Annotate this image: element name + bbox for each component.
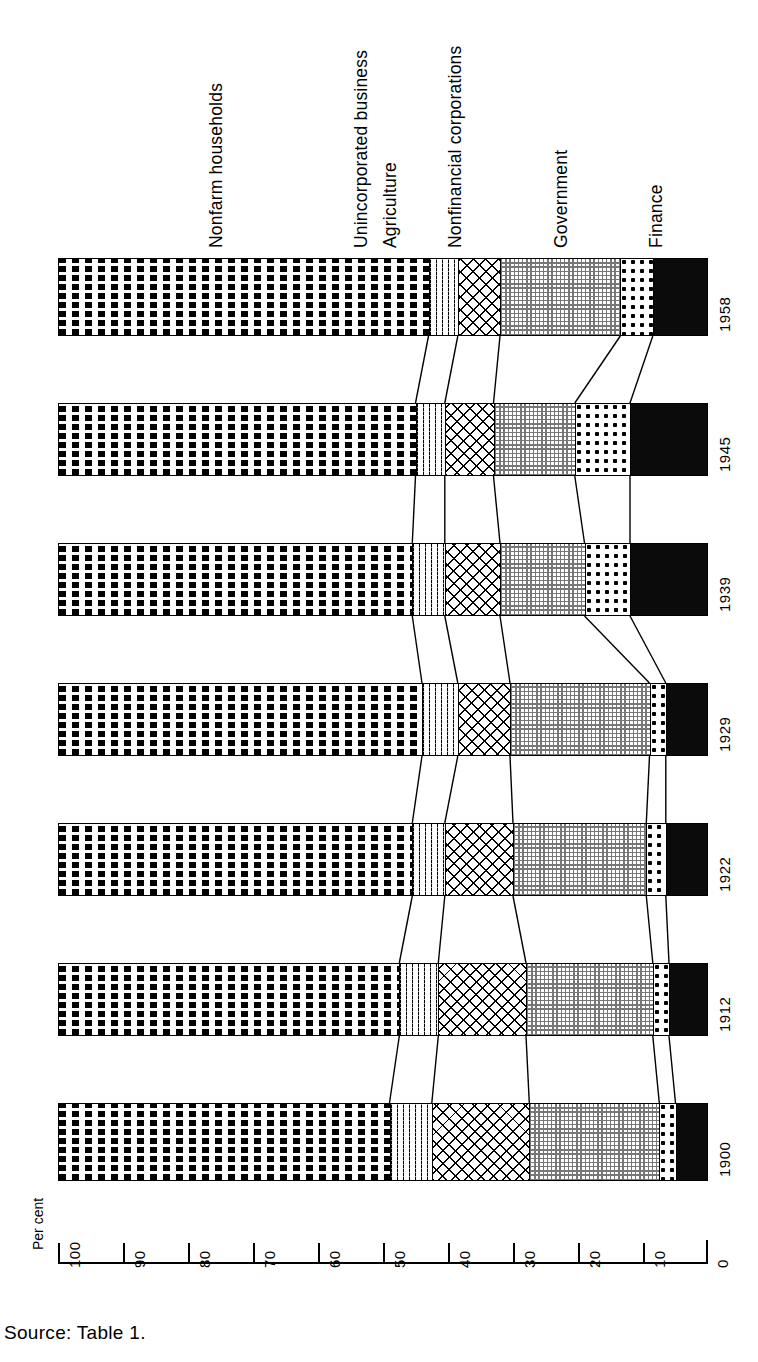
segment-1939-nonfarm-households <box>59 544 413 615</box>
segment-1939-finance <box>631 544 708 615</box>
segment-1929-finance <box>667 684 708 755</box>
segment-1945-unincorporated-business <box>417 404 446 475</box>
year-label-1922: 1922 <box>716 857 733 892</box>
segment-1912-agriculture <box>439 964 527 1035</box>
year-label-1929: 1929 <box>716 717 733 752</box>
segment-1912-nonfinancial-corporations <box>527 964 654 1035</box>
axis-tick-10 <box>643 1243 645 1262</box>
segment-1900-government <box>660 1104 676 1180</box>
category-label-agriculture: Agriculture <box>380 162 401 248</box>
segment-1929-government <box>651 684 667 755</box>
axis-ticklabel-0: 0 <box>714 1259 731 1268</box>
axis-tick-100 <box>58 1243 60 1262</box>
source-note: Source: Table 1. <box>4 1322 146 1344</box>
year-label-1912: 1912 <box>716 997 733 1032</box>
segment-1958-nonfinancial-corporations <box>501 259 621 335</box>
category-label-nonfinancial-corporations: Nonfinancial corporations <box>445 46 466 248</box>
segment-1922-finance <box>667 824 708 895</box>
x-axis-line <box>58 1262 708 1264</box>
segment-1922-unincorporated-business <box>413 824 446 895</box>
segment-1912-unincorporated-business <box>400 964 439 1035</box>
bar-1945 <box>58 403 708 476</box>
axis-title-per-cent: Per cent <box>30 1198 46 1250</box>
year-label-1900: 1900 <box>716 1142 733 1177</box>
bar-1939 <box>58 543 708 616</box>
bar-1958 <box>58 258 708 336</box>
axis-ticklabel-80: 80 <box>196 1250 213 1268</box>
axis-tick-80 <box>188 1243 190 1262</box>
axis-ticklabel-100: 100 <box>66 1241 83 1268</box>
segment-1900-nonfarm-households <box>59 1104 391 1180</box>
year-label-1945: 1945 <box>716 437 733 472</box>
segment-1939-government <box>586 544 632 615</box>
axis-tick-30 <box>513 1243 515 1262</box>
axis-tick-50 <box>383 1243 385 1262</box>
segment-1939-unincorporated-business <box>413 544 446 615</box>
segment-1900-nonfinancial-corporations <box>530 1104 660 1180</box>
figure-stacked-bar-chart: Nonfarm households Unincorporated busine… <box>0 0 758 1362</box>
axis-ticklabel-50: 50 <box>391 1250 408 1268</box>
axis-ticklabel-90: 90 <box>131 1250 148 1268</box>
bar-1922 <box>58 823 708 896</box>
segment-1945-finance <box>631 404 708 475</box>
axis-ticklabel-40: 40 <box>456 1250 473 1268</box>
axis-ticklabel-20: 20 <box>586 1250 603 1268</box>
segment-1945-nonfarm-households <box>59 404 417 475</box>
segment-1958-nonfarm-households <box>59 259 430 335</box>
axis-tick-20 <box>578 1243 580 1262</box>
segment-1958-unincorporated-business <box>430 259 459 335</box>
category-label-government: Government <box>551 150 572 248</box>
category-label-nonfarm-households: Nonfarm households <box>206 83 227 248</box>
segment-1912-nonfarm-households <box>59 964 400 1035</box>
category-label-finance: Finance <box>646 184 667 248</box>
axis-tick-60 <box>318 1243 320 1262</box>
segment-1929-unincorporated-business <box>423 684 459 755</box>
year-label-1939: 1939 <box>716 577 733 612</box>
axis-ticklabel-30: 30 <box>521 1250 538 1268</box>
segment-1900-finance <box>677 1104 708 1180</box>
axis-tick-40 <box>448 1243 450 1262</box>
segment-1958-agriculture <box>459 259 501 335</box>
axis-tick-70 <box>253 1243 255 1262</box>
segment-1912-government <box>654 964 670 1035</box>
axis-tick-90 <box>123 1243 125 1262</box>
axis-ticklabel-60: 60 <box>326 1250 343 1268</box>
segment-1912-finance <box>670 964 708 1035</box>
segment-1945-nonfinancial-corporations <box>495 404 576 475</box>
segment-1922-nonfinancial-corporations <box>514 824 647 895</box>
segment-1900-agriculture <box>433 1104 531 1180</box>
category-label-unincorporated-business: Unincorporated business <box>351 50 372 248</box>
bar-1912 <box>58 963 708 1036</box>
segment-1922-agriculture <box>446 824 514 895</box>
axis-ticklabel-10: 10 <box>651 1250 668 1268</box>
segment-1929-nonfarm-households <box>59 684 423 755</box>
axis-end-cap-right <box>706 1240 708 1264</box>
segment-1945-government <box>576 404 631 475</box>
segment-1939-agriculture <box>446 544 501 615</box>
bar-1929 <box>58 683 708 756</box>
segment-1922-nonfarm-households <box>59 824 413 895</box>
segment-1929-nonfinancial-corporations <box>511 684 651 755</box>
segment-1958-finance <box>654 259 708 335</box>
year-label-1958: 1958 <box>716 297 733 332</box>
segment-1945-agriculture <box>446 404 495 475</box>
plot-area <box>58 258 708 1238</box>
segment-1939-nonfinancial-corporations <box>501 544 586 615</box>
segment-1929-agriculture <box>459 684 511 755</box>
segment-1958-government <box>621 259 654 335</box>
segment-1900-unincorporated-business <box>391 1104 433 1180</box>
axis-ticklabel-70: 70 <box>261 1250 278 1268</box>
segment-1922-government <box>647 824 667 895</box>
bar-1900 <box>58 1103 708 1181</box>
